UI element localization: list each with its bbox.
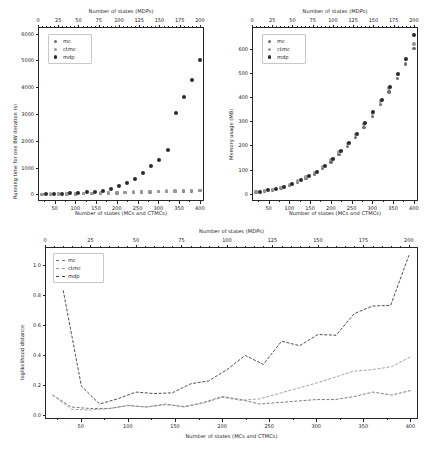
memory-legend[interactable]: mc ctmc mdp	[262, 34, 306, 64]
minor-tick-mark	[103, 26, 104, 27]
x-tick-label: 400	[401, 423, 419, 429]
tick-mark	[363, 419, 364, 422]
tick-mark	[289, 201, 290, 204]
y-tick-label: 0.0	[19, 412, 41, 418]
minor-tick-mark	[246, 419, 247, 420]
tick-mark	[373, 25, 374, 28]
x-tick-label: 250	[343, 205, 361, 211]
tick-mark	[252, 25, 253, 28]
minor-tick-mark	[279, 201, 280, 202]
minor-tick-mark	[42, 26, 43, 27]
minor-tick-mark	[164, 26, 165, 27]
x-top-tick-label: 150	[309, 237, 327, 243]
tick-mark	[272, 25, 273, 28]
dashed-line-icon	[56, 260, 65, 261]
minor-tick-mark	[288, 26, 289, 27]
x-tick-label: 150	[166, 423, 184, 429]
legend-item-ctmc[interactable]: ctmc	[51, 45, 88, 53]
x-tick-label: 150	[87, 205, 105, 211]
tick-mark	[250, 49, 253, 50]
minor-tick-mark	[74, 26, 75, 27]
legend-item-mc[interactable]: mc	[51, 37, 88, 45]
legend-item-mc[interactable]: mc	[56, 256, 100, 264]
tick-mark	[128, 419, 129, 422]
dot-marker-icon	[265, 55, 274, 59]
y-tick-label: 3000	[12, 111, 34, 117]
tick-mark	[250, 170, 253, 171]
data-point	[323, 164, 327, 168]
tick-mark	[222, 419, 223, 422]
running-time-y-axis-label: Running time for one BW iteration (s)	[12, 104, 18, 199]
tick-mark	[313, 25, 314, 28]
tick-mark	[117, 201, 118, 204]
minor-tick-mark	[151, 26, 152, 27]
y-tick-label: 1.0	[19, 262, 41, 268]
legend-item-ctmc[interactable]: ctmc	[56, 264, 100, 272]
tick-mark	[36, 60, 39, 61]
tick-mark	[250, 73, 253, 74]
running-time-legend[interactable]: mc ctmc mdp	[48, 34, 92, 64]
data-point	[173, 189, 176, 192]
x-tick-label: 200	[108, 205, 126, 211]
data-point	[157, 190, 160, 193]
data-point	[101, 189, 105, 193]
tick-mark	[333, 25, 334, 28]
y-tick-label: 100	[226, 167, 248, 173]
legend-item-mdp[interactable]: mdp	[265, 53, 302, 61]
dot-marker-icon	[51, 40, 60, 43]
minor-tick-mark	[402, 26, 403, 27]
data-point	[355, 132, 359, 136]
legend-item-mdp[interactable]: mdp	[56, 272, 100, 280]
legend-label: mdp	[277, 53, 289, 61]
tick-mark	[36, 168, 39, 169]
tick-mark	[78, 25, 79, 28]
legend-label: mdp	[63, 53, 75, 61]
data-point	[93, 190, 97, 194]
minor-tick-mark	[369, 26, 370, 27]
tick-mark	[316, 419, 317, 422]
minor-tick-mark	[276, 26, 277, 27]
y-tick-label: 0	[12, 191, 34, 197]
dot-marker-icon	[265, 40, 274, 43]
minor-tick-mark	[345, 26, 346, 27]
minor-tick-mark	[87, 26, 88, 27]
minor-tick-mark	[340, 419, 341, 420]
minor-tick-mark	[104, 419, 105, 420]
x-tick-label: 250	[260, 423, 278, 429]
minor-tick-mark	[264, 26, 265, 27]
minor-tick-mark	[341, 201, 342, 202]
minor-tick-mark	[297, 26, 298, 27]
tick-mark	[250, 194, 253, 195]
tick-mark	[36, 114, 39, 115]
tick-mark	[38, 25, 39, 28]
data-point	[387, 90, 390, 93]
minor-tick-mark	[309, 26, 310, 27]
legend-item-mc[interactable]: mc	[265, 37, 302, 45]
minor-tick-mark	[86, 201, 87, 202]
tick-mark	[36, 194, 39, 195]
y-tick-label: 0.8	[19, 292, 41, 298]
data-point	[198, 189, 201, 192]
x-top-tick-label: 75	[90, 17, 108, 23]
y-tick-label: 2000	[12, 138, 34, 144]
data-point	[404, 62, 407, 65]
minor-tick-mark	[168, 26, 169, 27]
data-point	[331, 157, 335, 161]
tick-mark	[55, 201, 56, 204]
y-tick-label: 4000	[12, 84, 34, 90]
minor-tick-mark	[387, 419, 388, 420]
loglikelihood-legend[interactable]: mc ctmc mdp	[53, 253, 104, 283]
tick-mark	[352, 201, 353, 204]
legend-label: mc	[68, 256, 76, 264]
memory-bottom-axis-label: Number of states (MCs and CTMCs)	[252, 210, 418, 216]
dot-marker-icon	[51, 55, 60, 59]
minor-tick-mark	[260, 26, 261, 27]
legend-label: ctmc	[68, 264, 81, 272]
legend-label: ctmc	[63, 45, 76, 53]
x-top-tick-label: 200	[191, 17, 209, 23]
minor-tick-mark	[390, 26, 391, 27]
minor-tick-mark	[320, 201, 321, 202]
y-tick-label: 0.4	[19, 352, 41, 358]
legend-item-mdp[interactable]: mdp	[51, 53, 88, 61]
legend-item-ctmc[interactable]: ctmc	[265, 45, 302, 53]
